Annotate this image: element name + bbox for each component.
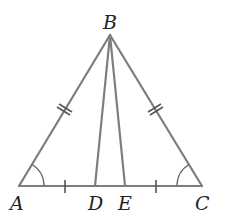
label-a: A (8, 192, 24, 214)
angle-arc-c (177, 165, 189, 187)
label-b: B (102, 11, 117, 33)
label-c: C (195, 192, 210, 214)
label-e: E (117, 192, 132, 214)
diagram-canvas: A B C D E (0, 0, 226, 218)
angle-arc-a (32, 165, 44, 187)
triangle-diagram: A B C D E (0, 0, 226, 218)
label-d: D (87, 192, 103, 214)
